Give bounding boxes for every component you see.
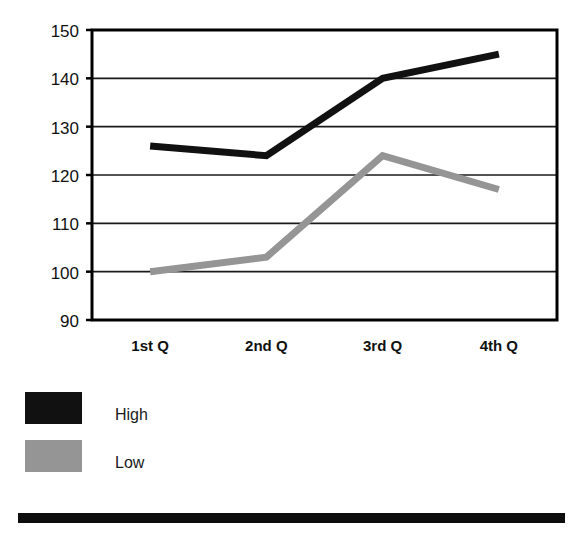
y-axis-label-100: 100: [51, 264, 79, 283]
legend-label-low: Low: [115, 454, 145, 471]
legend-label-high: High: [115, 406, 148, 423]
x-axis-label-1st-q: 1st Q: [131, 337, 169, 354]
x-axis-label-3rd-q: 3rd Q: [363, 337, 403, 354]
x-axis-label-4th-q: 4th Q: [480, 337, 519, 354]
x-axis-label-2nd-q: 2nd Q: [245, 337, 288, 354]
line-chart: 150 140 130 120 110 100 90 1st Q 2nd Q 3…: [0, 0, 583, 541]
y-axis-label-140: 140: [51, 70, 79, 89]
y-axis-label-130: 130: [51, 119, 79, 138]
y-axis-label-90: 90: [60, 312, 79, 331]
y-axis-label-150: 150: [51, 22, 79, 41]
y-axis-label-110: 110: [52, 215, 79, 234]
footer-rule: [18, 513, 565, 523]
chart-figure: 150 140 130 120 110 100 90 1st Q 2nd Q 3…: [0, 0, 583, 541]
legend-swatch-low: [25, 440, 82, 472]
chart-legend: High Low: [25, 392, 148, 472]
legend-swatch-high: [25, 392, 82, 424]
y-axis-label-120: 120: [51, 167, 79, 186]
